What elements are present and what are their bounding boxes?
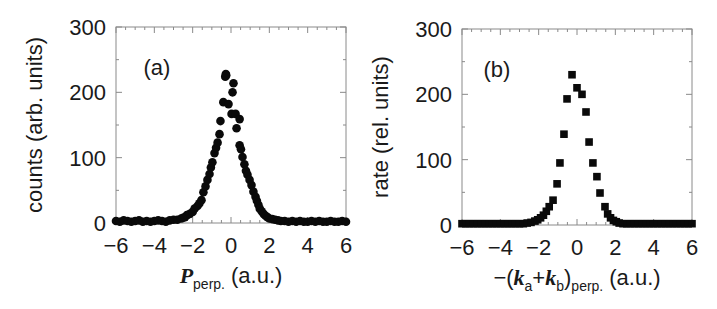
- x-axis-symbol-p: P: [179, 263, 194, 288]
- y-axis-title-b: rate (rel. units): [368, 56, 393, 198]
- data-point: [582, 108, 590, 116]
- data-point: [688, 220, 696, 228]
- y-tick-label: 200: [415, 82, 452, 107]
- x-axis-title-b: −(ka+kb)perp.(a.u.): [493, 265, 660, 294]
- x-tick-label: −4: [488, 235, 513, 260]
- x-tick-label: −6: [103, 233, 128, 258]
- data-point: [213, 138, 222, 147]
- data-point: [568, 71, 576, 79]
- panel-label-a: (a): [144, 55, 171, 80]
- x-axis-symbol-k-a: k: [514, 265, 525, 290]
- data-point: [573, 84, 581, 92]
- data-point: [563, 95, 571, 103]
- data-point: [235, 115, 244, 124]
- chart-a-svg: counts (arb. units) 0100200300 −6−4−2024…: [0, 0, 358, 309]
- x-axis-close-paren: ): [564, 265, 571, 290]
- y-tick-label: 100: [69, 146, 106, 171]
- x-axis-subscript-a: a: [525, 278, 533, 294]
- data-point: [549, 196, 557, 204]
- data-point: [216, 117, 225, 126]
- x-axis-prefix: −(: [493, 265, 514, 290]
- data-point: [553, 180, 561, 188]
- x-tick-labels-a: −6−4−20246: [103, 233, 352, 258]
- data-point: [229, 79, 238, 88]
- x-axis-unit-a: (a.u.): [231, 263, 282, 288]
- chart-panel-a: counts (arb. units) 0100200300 −6−4−2024…: [0, 0, 358, 309]
- x-tick-label: 4: [302, 233, 314, 258]
- x-tick-label: −4: [142, 233, 167, 258]
- x-tick-label: 2: [263, 233, 275, 258]
- data-points-b: [458, 71, 696, 228]
- x-tick-label: −2: [180, 233, 205, 258]
- data-point: [589, 159, 597, 167]
- data-point: [593, 173, 601, 181]
- data-point: [556, 159, 564, 167]
- x-axis-subscript-b: b: [556, 278, 564, 294]
- data-points-a: [112, 70, 351, 226]
- data-point: [197, 196, 206, 205]
- data-point: [224, 100, 233, 109]
- y-axis-title-a: counts (arb. units): [22, 37, 47, 213]
- x-axis-subscript-perp-b: perp.: [571, 278, 603, 294]
- y-tick-labels-a: 0100200300: [69, 15, 106, 236]
- x-tick-label: 4: [648, 235, 660, 260]
- data-point: [215, 130, 224, 139]
- y-tick-label: 300: [69, 15, 106, 40]
- data-point: [228, 88, 237, 97]
- data-point: [208, 158, 217, 167]
- x-axis-symbol-k-b: k: [545, 265, 556, 290]
- chart-panel-b: rate (rel. units) 0100200300 −6−4−20246 …: [346, 0, 704, 309]
- y-tick-label: 200: [69, 80, 106, 105]
- data-point: [578, 91, 586, 99]
- data-point: [237, 145, 246, 154]
- x-tick-labels-b: −6−4−20246: [449, 235, 698, 260]
- x-tick-label: 6: [686, 235, 698, 260]
- y-tick-label: 300: [415, 17, 452, 42]
- data-point: [232, 124, 241, 133]
- data-point: [238, 153, 247, 162]
- data-point: [222, 71, 231, 80]
- x-tick-label: −2: [526, 235, 551, 260]
- data-point: [545, 203, 553, 211]
- x-axis-subscript-perp: perp.: [193, 276, 225, 292]
- panel-label-b: (b): [484, 57, 511, 82]
- x-axis-title-a: Pperp.(a.u.): [179, 263, 283, 292]
- data-point: [585, 138, 593, 146]
- x-tick-label: −6: [449, 235, 474, 260]
- y-axis-label-b: rate (rel. units): [368, 56, 393, 198]
- x-axis-plus: +: [532, 265, 545, 290]
- y-tick-labels-b: 0100200300: [415, 17, 452, 238]
- x-tick-label: 2: [609, 235, 621, 260]
- data-point: [596, 189, 604, 197]
- chart-b-svg: rate (rel. units) 0100200300 −6−4−20246 …: [346, 0, 704, 309]
- data-point: [560, 130, 568, 138]
- x-axis-unit-b: (a.u.): [609, 265, 660, 290]
- x-tick-label: 0: [571, 235, 583, 260]
- data-point: [601, 203, 609, 211]
- y-tick-label: 100: [415, 148, 452, 173]
- y-axis-label-a: counts (arb. units): [22, 37, 47, 213]
- x-tick-label: 0: [225, 233, 237, 258]
